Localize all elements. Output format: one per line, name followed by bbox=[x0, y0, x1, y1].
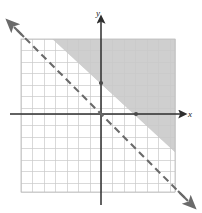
coordinate-plane-svg bbox=[0, 0, 202, 213]
x-intercept-point bbox=[134, 112, 138, 116]
boundary-line-arrow-end bbox=[178, 191, 188, 201]
graph-figure: y x bbox=[0, 0, 202, 213]
boundary-line-arrow-start bbox=[14, 27, 24, 37]
y-intercept-point bbox=[99, 81, 103, 85]
x-axis-label: x bbox=[188, 110, 192, 119]
y-axis-label: y bbox=[96, 9, 100, 18]
